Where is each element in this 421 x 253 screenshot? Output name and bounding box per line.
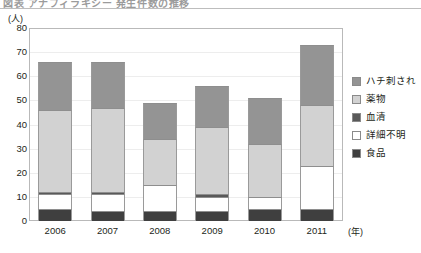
bar-segment-2009-詳細不明 (195, 197, 229, 211)
title-divider (0, 8, 421, 9)
bar-segment-2006-詳細不明 (38, 194, 72, 208)
legend-label: ハチ刺され (366, 76, 416, 86)
legend-item-0[interactable]: ハチ刺され (352, 76, 416, 86)
legend-item-2[interactable]: 血清 (352, 112, 416, 122)
bar-2007[interactable] (91, 62, 125, 221)
y-tick-label-80: 80 (3, 23, 27, 33)
bar-segment-2006-薬物 (38, 110, 72, 192)
y-tick-label-40: 40 (3, 120, 27, 130)
bar-2010[interactable] (248, 98, 282, 221)
legend-label: 食品 (366, 148, 386, 158)
bar-segment-2011-ハチ刺され (300, 45, 334, 105)
bar-segment-2006-ハチ刺され (38, 62, 72, 110)
x-tick-label-2011: 2011 (291, 225, 343, 236)
legend-item-1[interactable]: 薬物 (352, 94, 416, 104)
y-tick-label-10: 10 (3, 192, 27, 202)
x-tick-label-2006: 2006 (29, 225, 81, 236)
bar-segment-2007-薬物 (91, 108, 125, 192)
bar-segment-2010-詳細不明 (248, 197, 282, 209)
bar-segment-2007-ハチ刺され (91, 62, 125, 108)
legend-label: 血清 (366, 112, 386, 122)
bar-group (29, 28, 343, 221)
y-tick-label-70: 70 (3, 47, 27, 57)
bar-segment-2011-薬物 (300, 105, 334, 165)
legend-label: 詳細不明 (366, 130, 406, 140)
legend-item-3[interactable]: 詳細不明 (352, 130, 416, 140)
legend-swatch-icon (352, 95, 361, 104)
legend-swatch-icon (352, 77, 361, 86)
bar-segment-2007-食品 (91, 211, 125, 221)
bar-segment-2009-薬物 (195, 127, 229, 195)
legend-label: 薬物 (366, 94, 386, 104)
bar-2009[interactable] (195, 86, 229, 221)
bar-segment-2011-食品 (300, 209, 334, 221)
bar-segment-2009-ハチ刺され (195, 86, 229, 127)
y-tick-label-60: 60 (3, 71, 27, 81)
x-axis-unit-label: (年) (348, 225, 363, 238)
bar-segment-2008-薬物 (143, 139, 177, 185)
x-tick-label-2008: 2008 (134, 225, 186, 236)
y-axis: 01020304050607080 (0, 0, 27, 253)
bar-2008[interactable] (143, 103, 177, 221)
legend-swatch-icon (352, 131, 361, 140)
legend-swatch-icon (352, 113, 361, 122)
y-tick-label-50: 50 (3, 95, 27, 105)
bar-2011[interactable] (300, 45, 334, 221)
bar-segment-2008-ハチ刺され (143, 103, 177, 139)
bar-segment-2008-詳細不明 (143, 185, 177, 212)
bar-segment-2010-食品 (248, 209, 282, 221)
x-tick-label-2007: 2007 (81, 225, 133, 236)
bar-segment-2007-詳細不明 (91, 194, 125, 211)
bar-segment-2009-食品 (195, 211, 229, 221)
bar-segment-2008-食品 (143, 211, 177, 221)
y-tick-label-0: 0 (3, 216, 27, 226)
bar-segment-2006-食品 (38, 209, 72, 221)
y-tick-label-20: 20 (3, 168, 27, 178)
legend-item-4[interactable]: 食品 (352, 148, 416, 158)
x-tick-label-2009: 2009 (186, 225, 238, 236)
chart-legend: ハチ刺され薬物血清詳細不明食品 (352, 76, 416, 158)
bar-segment-2010-ハチ刺され (248, 98, 282, 144)
y-tick-label-30: 30 (3, 144, 27, 154)
bar-2006[interactable] (38, 62, 72, 221)
bar-segment-2010-薬物 (248, 144, 282, 197)
x-tick-label-2010: 2010 (238, 225, 290, 236)
legend-swatch-icon (352, 149, 361, 158)
bar-segment-2011-詳細不明 (300, 166, 334, 209)
